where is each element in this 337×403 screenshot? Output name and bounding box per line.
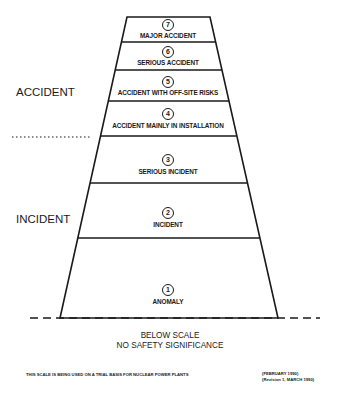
level-4-label: ACCIDENT MAINLY IN INSTALLATION (112, 122, 223, 129)
date-revision: (Revision 1, MARCH 1990) (262, 377, 314, 383)
level-7-number: 7 (162, 19, 174, 31)
category-accident-label: ACCIDENT (16, 86, 75, 98)
below-scale-subtitle: NO SAFETY SIGNIFICANCE (117, 341, 224, 351)
level-2-label: INCIDENT (153, 221, 182, 228)
level-3-number: 3 (162, 154, 174, 166)
level-3-label: SERIOUS INCIDENT (138, 168, 197, 175)
level-4-number: 4 (162, 108, 174, 120)
level-5-label: ACCIDENT WITH OFF-SITE RISKS (118, 89, 219, 96)
category-incident-label: INCIDENT (16, 213, 70, 225)
level-5-number: 5 (162, 76, 174, 88)
level-6-number: 6 (162, 46, 174, 58)
level-6-label: SERIOUS ACCIDENT (137, 59, 199, 66)
level-1-number: 1 (162, 284, 174, 296)
footnote: THIS SCALE IS BEING USED ON A TRIAL BASI… (26, 372, 188, 377)
level-1-label: ANOMALY (152, 298, 183, 305)
level-2-number: 2 (162, 207, 174, 219)
level-7-label: MAJOR ACCIDENT (140, 32, 196, 39)
below-scale-title: BELOW SCALE (141, 331, 200, 341)
